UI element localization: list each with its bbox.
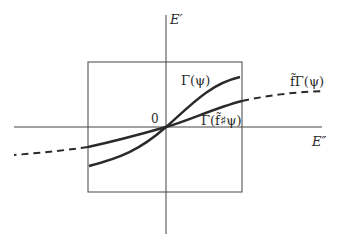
label-gamma-psi: Γ(ψ): [181, 73, 210, 88]
origin-label: 0: [151, 112, 159, 126]
label-f-tilde-gamma-psi: f̃Γ(ψ): [290, 73, 324, 89]
curve-f-tilde-gamma-psi-left: [14, 147, 88, 155]
vertical-axis-label: E′: [169, 12, 182, 27]
horizontal-axis-label: E″: [311, 134, 326, 149]
label-gamma-f-sharp-psi: Γ(f̃♯ψ): [201, 112, 241, 128]
curve-f-tilde-gamma-psi-right: [242, 91, 324, 101]
diagram-canvas: E′ E″ 0 Γ(ψ) Γ(f̃♯ψ) f̃Γ(ψ): [0, 0, 345, 242]
